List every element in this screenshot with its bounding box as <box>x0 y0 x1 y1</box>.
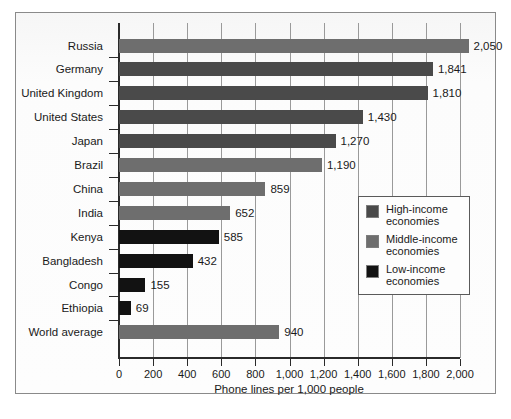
bar-value-label: 432 <box>198 255 217 267</box>
bar <box>119 278 145 292</box>
legend-item-middle: Middle-income economies <box>366 233 462 257</box>
x-axis-tick <box>460 359 461 366</box>
bar-value-label: 1,190 <box>327 159 356 171</box>
x-axis-tick <box>153 359 154 366</box>
x-axis-tick-label: 200 <box>144 368 162 380</box>
bar-value-label: 155 <box>150 279 169 291</box>
bar-value-label: 652 <box>235 207 254 219</box>
category-label: Ethiopia <box>61 302 103 314</box>
bar-value-label: 69 <box>136 302 149 314</box>
x-axis-tick-label: 1,200 <box>310 368 338 380</box>
bar <box>119 86 428 100</box>
bar-value-label: 940 <box>284 326 303 338</box>
category-label: World average <box>28 326 103 338</box>
bar <box>119 325 279 339</box>
x-axis-tick <box>187 359 188 366</box>
category-label: Japan <box>72 135 103 147</box>
y-axis-tick <box>109 81 118 82</box>
y-axis-tick <box>109 296 118 297</box>
x-axis-tick-label: 1,600 <box>378 368 406 380</box>
bar-value-label: 2,050 <box>474 40 503 52</box>
y-axis-tick <box>109 57 118 58</box>
y-axis-tick <box>109 105 118 106</box>
bar <box>119 230 219 244</box>
bar <box>119 206 230 220</box>
category-label: Russia <box>68 40 103 52</box>
legend-swatch-low-income-icon <box>366 265 379 278</box>
x-axis-tick <box>255 359 256 366</box>
category-label: Germany <box>56 63 103 75</box>
x-axis-tick <box>290 359 291 366</box>
legend-item-high: High-income economies <box>366 203 462 227</box>
category-label: Congo <box>69 279 103 291</box>
y-axis-tick <box>109 177 118 178</box>
y-axis-tick <box>109 273 118 274</box>
bar <box>119 301 131 315</box>
legend-item-low: Low-income economies <box>366 263 462 287</box>
category-label: Brazil <box>74 159 103 171</box>
x-axis-tick-label: 0 <box>116 368 122 380</box>
y-axis-tick <box>109 320 118 321</box>
bar-value-label: 1,841 <box>438 63 467 75</box>
x-axis-tick <box>358 359 359 366</box>
x-axis-tick <box>324 359 325 366</box>
x-axis-tick <box>221 359 222 366</box>
bar <box>119 254 193 268</box>
y-axis-tick <box>109 225 118 226</box>
x-axis-tick-label: 600 <box>212 368 230 380</box>
bar-value-label: 1,430 <box>368 111 397 123</box>
category-label: United States <box>34 111 103 123</box>
x-axis-tick-label: 1,000 <box>276 368 304 380</box>
x-axis-title: Phone lines per 1,000 people <box>118 383 460 395</box>
legend-label-low-income: Low-income economies <box>386 263 445 287</box>
chart-figure: 02004006008001,0001,2001,4001,6001,8002,… <box>15 12 496 394</box>
bar <box>119 110 363 124</box>
x-axis-tick-label: 800 <box>246 368 264 380</box>
category-label: Bangladesh <box>42 255 103 267</box>
legend-swatch-middle-income-icon <box>366 235 379 248</box>
legend-label-middle-income: Middle-income economies <box>386 233 458 257</box>
bar-value-label: 585 <box>224 231 243 243</box>
bar-value-label: 1,810 <box>433 87 462 99</box>
category-label: India <box>78 207 103 219</box>
y-axis-tick <box>109 153 118 154</box>
x-axis-tick <box>426 359 427 366</box>
x-axis-tick-label: 2,000 <box>446 368 474 380</box>
bar <box>119 158 322 172</box>
legend-label-high-income: High-income economies <box>386 203 448 227</box>
legend-swatch-high-income-icon <box>366 205 379 218</box>
bar <box>119 134 336 148</box>
category-label: Kenya <box>70 231 103 243</box>
x-axis-tick <box>392 359 393 366</box>
category-label: United Kingdom <box>21 87 103 99</box>
x-axis-tick <box>119 359 120 366</box>
y-axis-tick <box>109 249 118 250</box>
bar-value-label: 859 <box>270 183 289 195</box>
x-axis-tick-label: 1,400 <box>344 368 372 380</box>
legend: High-income economies Middle-income econ… <box>358 196 470 295</box>
x-axis-tick-label: 400 <box>178 368 196 380</box>
y-axis-tick <box>109 129 118 130</box>
bar <box>119 182 265 196</box>
x-axis-line <box>118 357 460 359</box>
bar-value-label: 1,270 <box>341 135 370 147</box>
y-axis-tick <box>109 201 118 202</box>
bar <box>119 62 433 76</box>
x-axis-tick-label: 1,800 <box>412 368 440 380</box>
bar <box>119 39 469 53</box>
category-label: China <box>73 183 103 195</box>
